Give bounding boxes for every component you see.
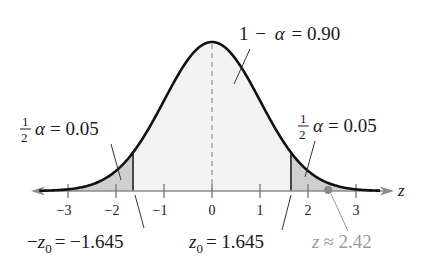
z0-label: z0= 1.645 — [188, 231, 264, 256]
leader-z-point — [331, 194, 348, 231]
svg-text:1: 1 — [22, 114, 29, 129]
svg-text:α= 0.05: α= 0.05 — [35, 118, 99, 139]
tick-label: −3 — [57, 203, 72, 218]
tick-label: 2 — [305, 203, 312, 218]
tick-label: 0 — [209, 203, 216, 218]
leader-z0 — [282, 195, 291, 230]
normal-distribution-chart: −3−2−10123 1 − α = 0.90 1 2 α= 0.05 1 2 … — [0, 0, 426, 269]
svg-text:2: 2 — [299, 127, 306, 142]
marked-point — [324, 186, 332, 194]
tick-label: 1 — [257, 203, 264, 218]
svg-text:1: 1 — [300, 111, 307, 126]
tick-label: −2 — [105, 203, 120, 218]
z-point-label: z≈ 2.42 — [311, 231, 372, 252]
tick-label: −1 — [153, 203, 168, 218]
tick-label: 3 — [353, 203, 360, 218]
left-tail-label: 1 2 α= 0.05 — [20, 114, 99, 145]
svg-text:2: 2 — [21, 130, 28, 145]
right-tail-label: 1 2 α= 0.05 — [298, 111, 377, 142]
center-area-label: 1 − α = 0.90 — [239, 23, 340, 44]
neg-z0-label: −z0= −1.645 — [27, 231, 124, 256]
leader-neg-z0 — [135, 195, 144, 228]
axis-variable-label: z — [397, 181, 405, 200]
svg-text:α= 0.05: α= 0.05 — [313, 115, 377, 136]
